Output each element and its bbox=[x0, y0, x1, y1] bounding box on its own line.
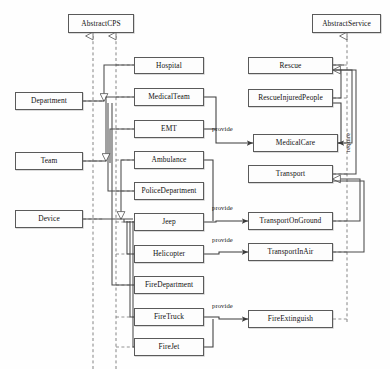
node-emt[interactable]: EMT bbox=[134, 120, 204, 138]
node-medical-team[interactable]: MedicalTeam bbox=[134, 88, 204, 106]
node-jeep[interactable]: Jeep bbox=[134, 213, 204, 231]
node-department[interactable]: Department bbox=[15, 92, 83, 110]
edge-hospital-department bbox=[104, 65, 134, 101]
cps-hierarchy-edges bbox=[83, 65, 134, 347]
node-abstract-cps[interactable]: AbstractCPS bbox=[68, 14, 134, 33]
node-fire-jet[interactable]: FireJet bbox=[134, 338, 204, 356]
edge-emt-team bbox=[110, 129, 134, 163]
node-fire-extinguish[interactable]: FireExtinguish bbox=[248, 310, 333, 328]
node-police-department[interactable]: PoliceDepartment bbox=[134, 182, 204, 200]
edge-label-provide-fire-extinguish: provide bbox=[212, 302, 233, 309]
edge-provide-medical-care-from-medical-team bbox=[204, 97, 253, 143]
node-transport[interactable]: Transport bbox=[248, 165, 333, 183]
edge-rescue-injured-rescue bbox=[333, 70, 341, 98]
node-transport-in-air[interactable]: TransportInAir bbox=[248, 243, 333, 261]
edge-provide-transport-on-ground bbox=[204, 221, 248, 222]
edge-transport-ground-transport bbox=[333, 179, 360, 221]
node-transport-on-ground[interactable]: TransportOnGround bbox=[248, 212, 333, 230]
service-hierarchy-edges bbox=[333, 65, 364, 252]
edge-provide-transport-in-air bbox=[204, 252, 248, 254]
node-fire-department[interactable]: FireDepartment bbox=[134, 276, 204, 294]
edge-label-provide-transport-on-ground: provide bbox=[212, 204, 233, 211]
uml-component-diagram: AbstractCPS AbstractService Department T… bbox=[0, 0, 390, 369]
node-device[interactable]: Device bbox=[15, 210, 83, 228]
node-abstract-service[interactable]: AbstractService bbox=[312, 14, 381, 33]
edge-transport-rescue bbox=[333, 70, 356, 174]
node-fire-truck[interactable]: FireTruck bbox=[134, 308, 204, 326]
edge-transport-air-transport bbox=[333, 181, 364, 252]
edge-label-require-medical-care: require bbox=[344, 133, 351, 152]
edge-provide-ambulance-join bbox=[204, 160, 213, 221]
node-rescue[interactable]: Rescue bbox=[248, 57, 333, 74]
node-team[interactable]: Team bbox=[15, 152, 83, 170]
node-rescue-injured-people[interactable]: RescueInjuredPeople bbox=[248, 89, 333, 107]
edge-provide-fire-extinguish bbox=[204, 317, 248, 319]
node-helicopter[interactable]: Helicopter bbox=[134, 245, 204, 263]
node-ambulance[interactable]: Ambulance bbox=[134, 151, 204, 169]
edge-fire-department-department bbox=[112, 103, 134, 285]
edge-ambulance-device bbox=[121, 160, 134, 219]
edge-provide-fire-jet-join bbox=[204, 319, 213, 347]
provide-edges bbox=[204, 97, 253, 347]
node-medical-care[interactable]: MedicalCare bbox=[253, 134, 338, 152]
edge-label-provide-transport-in-air: provide bbox=[212, 236, 233, 243]
edge-label-provide-medical-care: provide bbox=[212, 125, 233, 132]
node-hospital[interactable]: Hospital bbox=[134, 57, 204, 74]
